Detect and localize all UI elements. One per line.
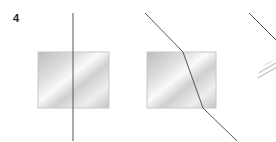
panel-1 xyxy=(38,13,109,141)
panel-2 xyxy=(145,13,237,141)
panel-3 xyxy=(249,13,276,78)
glass-block xyxy=(147,52,216,108)
hatched-region xyxy=(257,60,276,78)
diagram-canvas xyxy=(0,0,276,142)
light-ray xyxy=(249,13,276,40)
